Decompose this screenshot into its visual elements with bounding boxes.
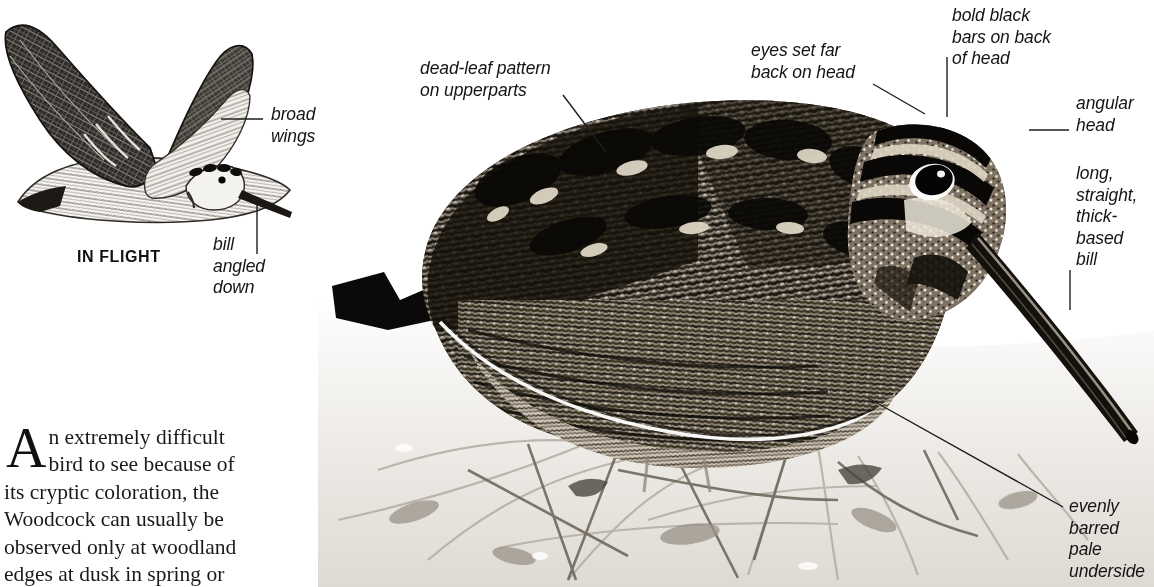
- callout-long-straight-bill: long, straight, thick- based bill: [1076, 163, 1137, 271]
- description-line-2: bird to see because of: [48, 452, 234, 476]
- description-line-4: Woodcock can usually be: [4, 507, 224, 531]
- leader-dead-leaf-pattern: [563, 95, 606, 152]
- description-line-5: observed only at woodland: [4, 535, 236, 559]
- callout-evenly-barred-underside: evenly barred pale underside: [1069, 496, 1154, 582]
- callout-bold-black-bars: bold black bars on back of head: [952, 5, 1051, 70]
- drop-cap: A: [4, 424, 48, 470]
- callout-dead-leaf-pattern: dead-leaf pattern on upperparts: [420, 58, 551, 101]
- callout-angular-head: angular head: [1076, 93, 1134, 136]
- description-line-3: its cryptic coloration, the: [4, 480, 219, 504]
- description-line-6: edges at dusk in spring or: [4, 562, 224, 586]
- callout-eyes-set-far-back: eyes set far back on head: [751, 40, 855, 83]
- leader-eyes-set-far-back: [873, 84, 925, 114]
- description-first-line: n extremely difficult: [48, 425, 224, 449]
- description-paragraph: n extremely difficultbird to see because…: [4, 424, 334, 587]
- callout-bill-angled-down: bill angled down: [213, 234, 265, 299]
- species-description-text: A n extremely difficultbird to see becau…: [4, 424, 334, 587]
- field-guide-plate: IN FLIGHT broad: [0, 0, 1154, 587]
- callout-broad-wings: broad wings: [271, 104, 315, 147]
- leader-evenly-barred-underside: [868, 398, 1063, 507]
- in-flight-caption: IN FLIGHT: [77, 248, 161, 266]
